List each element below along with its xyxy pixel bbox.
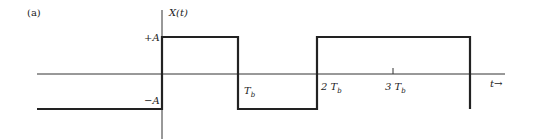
tick-label-2tb: 2 Tb <box>320 81 342 95</box>
high-level-label: +A <box>144 32 160 43</box>
panel-label: (a) <box>27 7 41 18</box>
tick-label-3tb: 3 Tb <box>385 81 406 95</box>
x-axis-label: t→ <box>490 78 503 89</box>
y-axis-label: X(t) <box>168 7 188 18</box>
low-level-label: −A <box>144 95 160 106</box>
tick-label-tb: Tb <box>244 85 256 99</box>
waveform-diagram: (a) X(t) +A −A t→ Tb 2 Tb 3 Tb <box>0 0 535 139</box>
